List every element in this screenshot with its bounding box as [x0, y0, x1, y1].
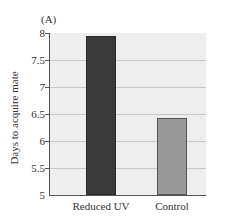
y-tick-label: 5.5: [31, 162, 45, 174]
x-category-label: Control: [155, 200, 189, 212]
plot-area: [49, 33, 206, 196]
y-tick-label: 5: [40, 189, 46, 201]
y-tick: [45, 141, 50, 142]
bar-control: [157, 118, 187, 195]
y-tick-label: 7.5: [31, 54, 45, 66]
gridline: [50, 60, 206, 61]
y-axis-label: Days to acquire mate: [8, 71, 20, 164]
gridline: [50, 87, 206, 88]
y-tick: [45, 60, 50, 61]
panel-label: (A): [41, 13, 56, 25]
gridline: [50, 114, 206, 115]
y-tick: [45, 87, 50, 88]
y-tick: [45, 114, 50, 115]
y-tick: [45, 33, 50, 34]
y-tick-label: 6.5: [31, 108, 45, 120]
y-tick: [45, 168, 50, 169]
bar-reduced-uv: [86, 36, 116, 195]
x-category-label: Reduced UV: [72, 200, 129, 212]
